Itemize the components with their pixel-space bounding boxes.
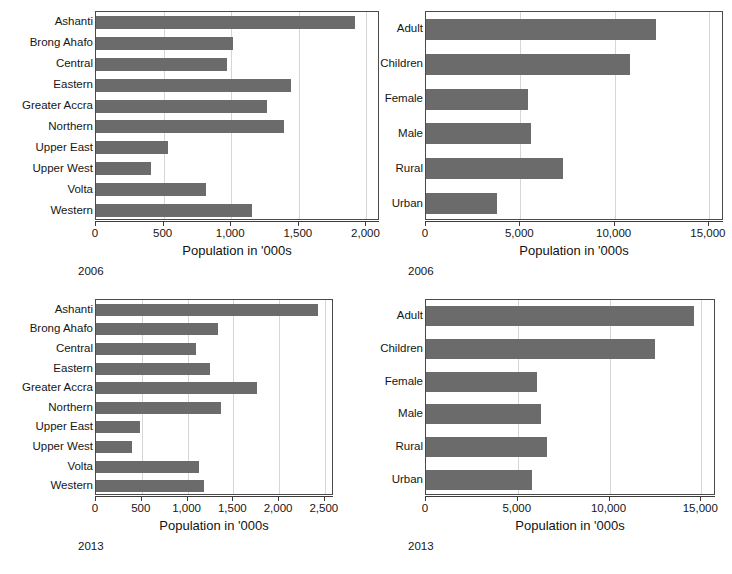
chart-panel-groups-2013: AdultChildrenFemaleMaleRuralUrban 05,000… [380,290,732,574]
x-axis-tick [95,496,96,501]
x-axis-tick-label: 0 [92,502,98,515]
category-axis-labels-regions-2013: AshantiBrong AhafoCentralEasternGreater … [5,299,93,495]
bar [96,363,210,375]
bar [426,437,547,457]
x-axis-tick [95,221,96,226]
category-axis-labels-groups-2013: AdultChildrenFemaleMaleRuralUrban [365,299,423,495]
chart-panel-groups-2006: AdultChildrenFemaleMaleRuralUrban 05,000… [380,0,732,290]
x-axis-tick-label: 0 [422,502,428,515]
plot-frame [425,299,715,495]
bar [426,339,655,359]
category-label: Female [385,92,423,104]
category-label: Eastern [53,362,93,374]
bar [96,79,291,92]
chart-panel-regions-2006: AshantiBrong AhafoCentralEasternGreater … [0,0,380,290]
x-axis-tick-label: 15,000 [690,227,725,240]
category-label: Volta [67,183,93,195]
category-label: Brong Ahafo [30,322,93,334]
plot-area-regions-2006 [95,11,379,220]
x-axis-tick [141,496,142,501]
plot-area-groups-2013 [425,299,715,495]
category-label: Northern [48,401,93,413]
category-label: Central [56,342,93,354]
x-axis-tick [519,221,520,226]
category-label: Children [380,342,423,354]
x-axis-tick [708,221,709,226]
plot-frame [95,299,333,495]
bar [426,193,497,214]
plot-area-regions-2013 [95,299,333,495]
bar [96,461,199,473]
x-axis-tick-label: 2,000 [264,502,293,515]
category-label: Upper East [35,141,93,153]
bar [96,162,151,175]
bar [426,372,537,392]
x-axis-title: Population in '000s [95,243,379,258]
x-axis-tick [365,221,366,226]
category-label: Rural [396,162,423,174]
x-axis-tick [614,221,615,226]
category-label: Greater Accra [22,99,93,111]
x-axis-regions-2013: 05001,0001,5002,0002,500 [95,496,333,497]
category-label: Upper West [32,440,93,452]
x-axis-tick [324,496,325,501]
x-axis-tick [187,496,188,501]
x-axis-regions-2006: 05001,0001,5002,000 [95,221,379,222]
bar [426,54,630,75]
bar-series-groups-2006 [426,12,722,219]
bar [96,421,140,433]
bar [426,89,528,110]
category-label: Ashanti [55,15,93,27]
x-axis-tick-label: 1,000 [172,502,201,515]
bar [96,37,233,50]
panel-caption-groups-2006: 2006 [408,265,434,278]
category-label: Greater Accra [22,381,93,393]
bar [426,404,541,424]
bar [96,204,252,217]
category-label: Northern [48,120,93,132]
category-label: Adult [397,22,423,34]
category-label: Male [398,407,423,419]
category-label: Female [385,375,423,387]
bar [426,123,531,144]
x-axis-tick-label: 10,000 [591,502,626,515]
plot-frame [95,11,379,220]
category-label: Western [50,479,93,491]
bar [96,58,227,71]
x-axis-tick [609,496,610,501]
bar-series-regions-2013 [96,300,332,494]
category-axis-labels-groups-2006: AdultChildrenFemaleMaleRuralUrban [365,11,423,220]
panel-caption-regions-2013: 2013 [78,540,104,553]
category-label: Urban [392,473,423,485]
x-axis-groups-2013: 05,00010,00015,000 [425,496,715,497]
category-label: Adult [397,309,423,321]
bar [96,304,318,316]
x-axis-tick-label: 5,000 [505,227,534,240]
bar [96,441,132,453]
x-axis-tick [700,496,701,501]
x-axis-title: Population in '000s [425,243,723,258]
bar-series-groups-2013 [426,300,714,494]
chart-panel-regions-2013: AshantiBrong AhafoCentralEasternGreater … [0,290,380,574]
x-axis-tick-label: 10,000 [596,227,631,240]
x-axis-tick-label: 2,500 [309,502,338,515]
category-label: Upper East [35,420,93,432]
figure-container: AshantiBrong AhafoCentralEasternGreater … [0,0,732,574]
category-label: Upper West [32,162,93,174]
panel-caption-groups-2013: 2013 [408,540,434,553]
x-axis-groups-2006: 05,00010,00015,000 [425,221,723,222]
plot-frame [425,11,723,220]
x-axis-title: Population in '000s [95,518,333,533]
x-axis-tick [232,496,233,501]
x-axis-title: Population in '000s [425,518,715,533]
bar [96,343,196,355]
bar [96,323,218,335]
x-axis-tick-label: 500 [153,227,172,240]
bar-series-regions-2006 [96,12,378,219]
category-label: Central [56,57,93,69]
category-label: Children [380,57,423,69]
bar [96,382,257,394]
bar [426,470,532,490]
x-axis-tick-label: 1,500 [218,502,247,515]
x-axis-tick [230,221,231,226]
